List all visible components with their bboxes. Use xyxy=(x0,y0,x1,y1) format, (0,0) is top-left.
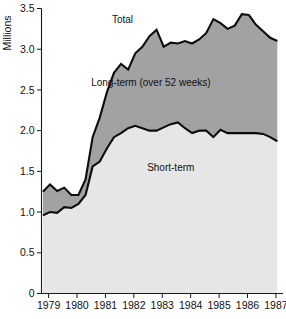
x-tick-label: 1979 xyxy=(37,299,61,311)
x-tick-label: 1983 xyxy=(151,299,175,311)
x-tick-label: 1986 xyxy=(236,299,260,311)
y-tick-label: 0.5 xyxy=(20,246,35,258)
x-tick-label: 1981 xyxy=(94,299,118,311)
short-term-series-label: Short-term xyxy=(147,162,194,173)
x-tick-label: 1987 xyxy=(264,299,286,311)
y-tick-label: 2.0 xyxy=(20,124,35,136)
y-tick-label: 3.5 xyxy=(20,2,35,14)
chart-canvas: 00.51.01.52.02.53.03.5 19791980198119821… xyxy=(0,0,286,319)
x-tick-label: 1985 xyxy=(207,299,231,311)
total-series-label: Total xyxy=(112,14,133,25)
x-tick-label: 1984 xyxy=(179,299,203,311)
y-tick-label: 2.5 xyxy=(20,84,35,96)
y-tick-label: 1.0 xyxy=(20,206,35,218)
y-tick-label: 3.0 xyxy=(20,43,35,55)
x-tick-label: 1980 xyxy=(65,299,89,311)
y-tick-label: 0 xyxy=(29,287,35,299)
x-axis-tick-labels: 197919801981198219831984198519861987 xyxy=(37,299,286,311)
x-tick-label: 1982 xyxy=(122,299,146,311)
long-term-series-label: Long-term (over 52 weeks) xyxy=(91,77,211,88)
y-axis-title: Millions xyxy=(1,15,13,50)
y-tick-label: 1.5 xyxy=(20,165,35,177)
unemployment-area-chart: 00.51.01.52.02.53.03.5 19791980198119821… xyxy=(0,0,286,319)
